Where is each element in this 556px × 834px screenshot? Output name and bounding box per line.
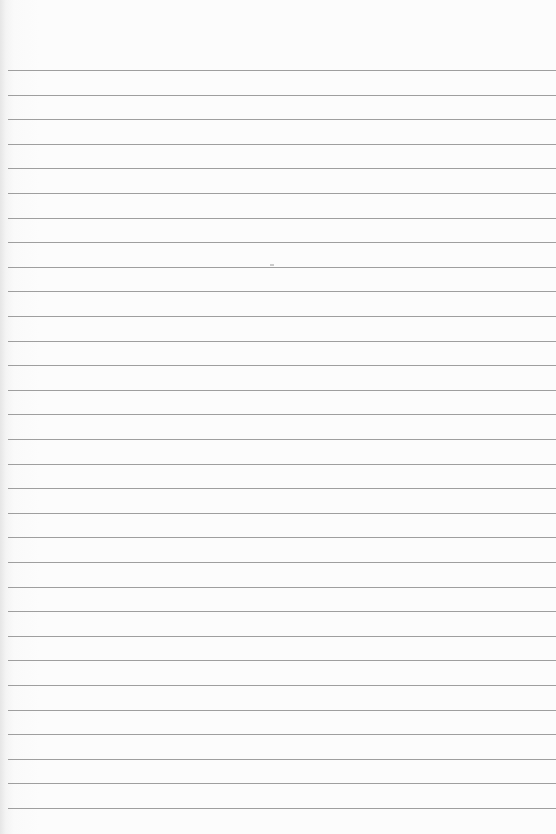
lined-paper-sheet [0,0,556,834]
ruled-line [8,119,556,120]
ruled-line [8,464,556,465]
ruled-line [8,488,556,489]
ruled-line [8,587,556,588]
ruled-line [8,168,556,169]
ruled-line [8,267,556,268]
ruled-line [8,759,556,760]
ruled-line [8,513,556,514]
ruled-line [8,562,556,563]
ruled-line [8,70,556,71]
ruled-line [8,218,556,219]
ruled-line [8,439,556,440]
ruled-line [8,95,556,96]
ruled-line [8,291,556,292]
ruled-line [8,316,556,317]
ruled-line [8,611,556,612]
ruled-line [8,193,556,194]
ruled-line [8,685,556,686]
ruled-line [8,390,556,391]
ruled-line [8,783,556,784]
stray-mark [270,264,274,266]
ruled-line [8,636,556,637]
ruled-line [8,144,556,145]
ruled-line [8,808,556,809]
ruled-line [8,537,556,538]
ruled-line [8,734,556,735]
ruled-line [8,660,556,661]
ruled-line [8,365,556,366]
ruled-line [8,341,556,342]
ruled-line [8,710,556,711]
ruled-line [8,242,556,243]
ruled-line [8,414,556,415]
